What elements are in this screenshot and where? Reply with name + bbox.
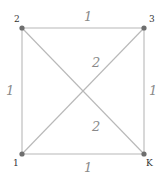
weight-label-3-k: 1 — [149, 83, 157, 98]
graph-diagram: 1 1 1 1 2 2 2 3 1 K — [0, 0, 162, 182]
weight-label-2-3: 1 — [84, 9, 92, 24]
node-label-3: 3 — [149, 14, 155, 24]
node-label-2: 2 — [14, 14, 20, 24]
node-1 — [19, 151, 24, 156]
node-label-1: 1 — [13, 158, 19, 168]
node-2 — [19, 25, 24, 30]
weight-label-2-k: 2 — [91, 119, 100, 134]
node-k — [141, 151, 146, 156]
node-label-k: K — [146, 158, 153, 168]
weight-label-1-3: 2 — [91, 55, 100, 70]
weight-label-2-1: 1 — [6, 83, 14, 98]
weight-label-1-k: 1 — [84, 160, 92, 175]
node-3 — [141, 25, 146, 30]
